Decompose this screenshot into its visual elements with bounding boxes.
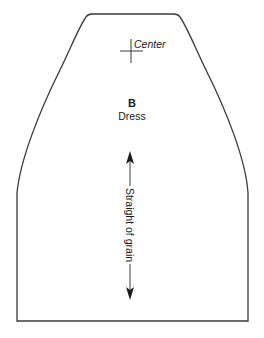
piece-name: Dress (0, 110, 264, 122)
grainline-label: Straight of grain (124, 186, 136, 264)
piece-letter: B (0, 97, 264, 109)
center-mark-label: Center (134, 38, 166, 50)
pattern-piece-outline (17, 14, 248, 321)
pattern-piece-canvas (0, 0, 264, 338)
